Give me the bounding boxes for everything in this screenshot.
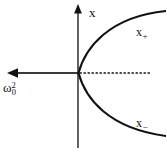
bifurcation-diagram: x ω02 x+ x− — [0, 0, 166, 154]
lower-branch-curve — [79, 73, 167, 136]
lower-branch-label: x− — [136, 117, 147, 132]
upper-branch-label-subscript: + — [142, 31, 147, 41]
horizontal-axis-label: ω02 — [3, 81, 16, 97]
horizontal-axis — [7, 68, 79, 78]
upper-branch-curve — [79, 11, 167, 73]
horizontal-axis-arrowhead-icon — [7, 68, 18, 78]
omega-symbol: ω — [3, 80, 12, 95]
lower-branch-label-subscript: − — [142, 122, 147, 132]
omega-superscript: 2 — [12, 80, 16, 90]
vertical-axis-label: x — [89, 6, 96, 19]
upper-branch-label: x+ — [136, 26, 147, 41]
vertical-axis-arrowhead-icon — [74, 4, 82, 14]
vertical-axis — [74, 4, 82, 148]
